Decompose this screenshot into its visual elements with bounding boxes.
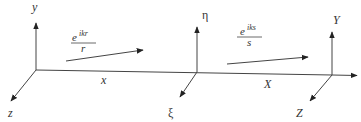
source-frame: y x z [7,0,107,120]
second-wave-denominator: s [247,36,251,48]
y-axis-label: y [31,0,38,14]
intermediate-frame: η ξ [168,8,208,120]
Z-axis-label: Z [296,106,303,120]
Z-axis-arrow [310,75,332,101]
x-axis-line [36,70,332,75]
first-wave-term: e ikr r [66,29,143,61]
second-wave-term: e iks s [227,23,308,64]
first-wave-arrow [66,50,143,61]
X-axis-label: X [263,77,272,91]
x-axis-label: x [100,73,107,87]
coordinate-diagram: y x z e ikr r η ξ e iks s Y X Z [0,0,361,122]
z-axis-label: z [7,106,13,120]
second-wave-arrow [227,57,308,64]
second-wave-numerator-base: e [240,25,245,37]
X-axis-arrow [332,75,357,76]
Y-axis-label: Y [333,13,341,27]
first-wave-denominator: r [81,42,86,54]
second-wave-exponent: iks [247,23,256,32]
xi-axis-label: ξ [168,106,174,120]
first-wave-numerator-base: e [72,31,77,43]
z-axis-arrow [11,70,36,101]
first-wave-exponent: ikr [79,29,89,38]
eta-axis-label: η [202,8,208,22]
observer-frame: Y X Z [263,13,341,120]
xi-axis-arrow [180,72,197,97]
